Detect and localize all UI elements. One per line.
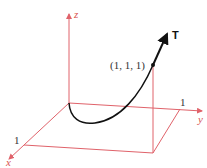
diagram: z y x 1 1 (1, 1, 1) T: [0, 0, 207, 168]
base-edge-x1: [24, 145, 153, 153]
x-axis: [9, 103, 69, 159]
curve: [69, 65, 153, 123]
z-axis-label: z: [74, 9, 78, 20]
x-axis-label: x: [6, 157, 11, 168]
diagram-canvas: [0, 0, 207, 168]
x-tick-label: 1: [14, 135, 20, 146]
tangent-vector: [153, 34, 167, 65]
base-edge-y1: [153, 109, 180, 153]
point-label: (1, 1, 1): [110, 60, 145, 71]
y-tick-label: 1: [180, 97, 186, 108]
point-marker: [151, 63, 155, 67]
y-axis-label: y: [198, 114, 203, 125]
tangent-label: T: [172, 30, 179, 41]
